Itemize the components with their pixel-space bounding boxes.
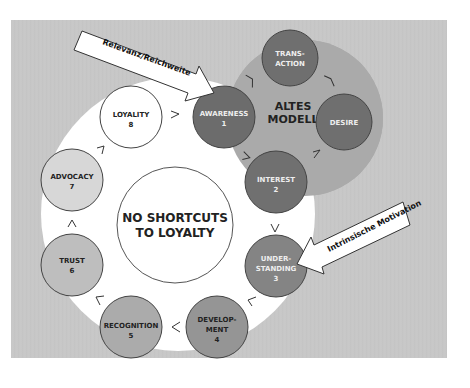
node-development-line1: DEVELOP-: [198, 316, 237, 324]
node-trust: TRUST 6: [41, 234, 103, 296]
node-trust-line1: TRUST: [59, 257, 85, 265]
motivation-arrow: Intrinsische Motivation: [297, 198, 423, 274]
node-transaction-line2: ACTION: [275, 60, 305, 68]
node-advocacy-line1: ADVOCACY: [50, 173, 94, 181]
node-development-line2: MENT: [206, 326, 229, 334]
node-development: DEVELOP- MENT 4: [186, 296, 248, 358]
old-model-label-line1: ALTES: [275, 100, 312, 113]
node-interest-line2: 2: [274, 186, 279, 194]
diagram-canvas: NO SHORTCUTS TO LOYALTY ALTES MODELL TRA…: [0, 0, 470, 388]
node-understanding: UNDER- STANDING 3: [245, 235, 307, 297]
node-interest-line1: INTEREST: [257, 176, 295, 184]
node-recognition-line1: RECOGNITION: [104, 322, 159, 330]
node-recognition-line2: 5: [129, 332, 134, 340]
node-understanding-line2: STANDING: [256, 265, 297, 273]
center-circle: [117, 167, 233, 283]
node-awareness-line2: 1: [222, 120, 227, 128]
node-awareness-line1: AWARENESS: [200, 110, 249, 118]
node-advocacy-line2: 7: [70, 183, 75, 191]
center-label-line2: TO LOYALTY: [136, 226, 215, 240]
node-desire: DESIRE: [316, 94, 372, 150]
node-transaction: TRANS- ACTION: [262, 30, 318, 86]
node-loyality-line2: 8: [129, 121, 134, 129]
node-desire-line1: DESIRE: [330, 119, 359, 127]
node-understanding-line1: UNDER-: [261, 255, 292, 263]
old-model-label-line2: MODELL: [268, 113, 319, 126]
node-loyality-line1: LOYALITY: [113, 111, 151, 119]
node-loyality: LOYALITY 8: [100, 86, 162, 148]
node-interest: INTEREST 2: [245, 151, 307, 213]
center-label-line1: NO SHORTCUTS: [122, 211, 228, 225]
node-advocacy: ADVOCACY 7: [41, 149, 103, 211]
node-understanding-line3: 3: [274, 275, 279, 283]
diagram-svg: NO SHORTCUTS TO LOYALTY ALTES MODELL TRA…: [0, 0, 470, 388]
node-development-line3: 4: [215, 336, 220, 344]
node-transaction-line1: TRANS-: [275, 50, 304, 58]
node-recognition: RECOGNITION 5: [100, 296, 162, 358]
node-trust-line2: 6: [70, 267, 75, 275]
